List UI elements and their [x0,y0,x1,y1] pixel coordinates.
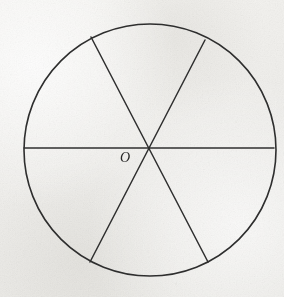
center-point-label-o: O [120,151,130,165]
circle-sectors-diagram [0,0,284,297]
diagonal-diameter-nw-se-line [91,37,208,262]
diagonal-diameter-ne-sw-line [90,40,205,262]
figure-canvas: O [0,0,284,297]
